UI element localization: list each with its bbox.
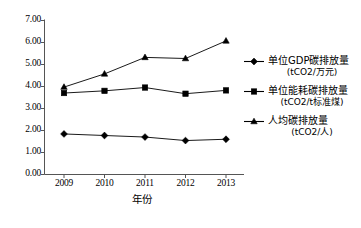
y-tick-label: 2.00 — [1, 125, 41, 135]
legend-marker-diamond-icon — [243, 56, 265, 67]
series-2 — [61, 85, 228, 97]
x-tick-label: 2009 — [55, 178, 73, 189]
plot-area — [44, 20, 240, 174]
y-tick-label: 3.00 — [1, 103, 41, 113]
legend-marker-triangle-icon — [243, 116, 265, 127]
series-1 — [61, 131, 230, 144]
legend-item-label: 单位能耗碳排放量 — [268, 85, 348, 97]
legend-item-unit: (tCO2/t标准煤) — [243, 97, 361, 108]
legend-marker-square-icon — [243, 86, 265, 97]
legend-item-unit: (tCO2/万元) — [243, 67, 361, 78]
x-tick-label: 2013 — [217, 178, 235, 189]
legend-item-3[interactable]: 人均碳排放量(tCO2/人) — [243, 115, 361, 138]
data-point-square — [102, 88, 107, 93]
x-axis-tick-labels: 20092010201120122013 — [44, 178, 240, 192]
series-line — [64, 41, 226, 87]
x-tick-label: 2012 — [176, 178, 194, 189]
data-point-triangle — [142, 54, 148, 60]
y-tick-label: 7.00 — [1, 15, 41, 25]
y-tick-label: 6.00 — [1, 37, 41, 47]
data-point-diamond — [101, 132, 108, 139]
axis-lines — [41, 20, 244, 179]
y-axis-tick-labels: 7.006.005.004.003.002.001.000.00 — [0, 20, 41, 174]
y-tick-label: 4.00 — [1, 81, 41, 91]
data-point-square — [142, 85, 147, 90]
x-tick-label: 2011 — [136, 178, 154, 189]
legend-item-unit: (tCO2/人) — [243, 127, 361, 138]
y-tick-label: 0.00 — [1, 169, 41, 179]
carbon-emission-line-chart: 7.006.005.004.003.002.001.000.00 2009201… — [0, 0, 361, 228]
chart-canvas — [44, 20, 240, 174]
data-point-diamond — [182, 137, 189, 144]
series-3 — [61, 38, 229, 90]
x-axis-title: 年份 — [44, 193, 240, 205]
data-point-triangle — [223, 38, 229, 44]
legend-item-1[interactable]: 单位GDP碳排放量(tCO2/万元) — [243, 55, 361, 78]
legend-item-label: 人均碳排放量 — [268, 115, 328, 127]
legend-item-2[interactable]: 单位能耗碳排放量(tCO2/t标准煤) — [243, 85, 361, 108]
data-point-square — [61, 90, 66, 95]
data-point-diamond — [61, 131, 68, 138]
data-point-square — [223, 88, 228, 93]
y-tick-label: 1.00 — [1, 147, 41, 157]
x-tick-label: 2010 — [95, 178, 113, 189]
legend-item-label: 单位GDP碳排放量 — [268, 55, 349, 67]
chart-legend: 单位GDP碳排放量(tCO2/万元)单位能耗碳排放量(tCO2/t标准煤)人均碳… — [243, 55, 361, 145]
data-point-diamond — [223, 136, 230, 143]
data-point-square — [183, 91, 188, 96]
y-tick-label: 5.00 — [1, 59, 41, 69]
data-point-diamond — [142, 134, 149, 141]
